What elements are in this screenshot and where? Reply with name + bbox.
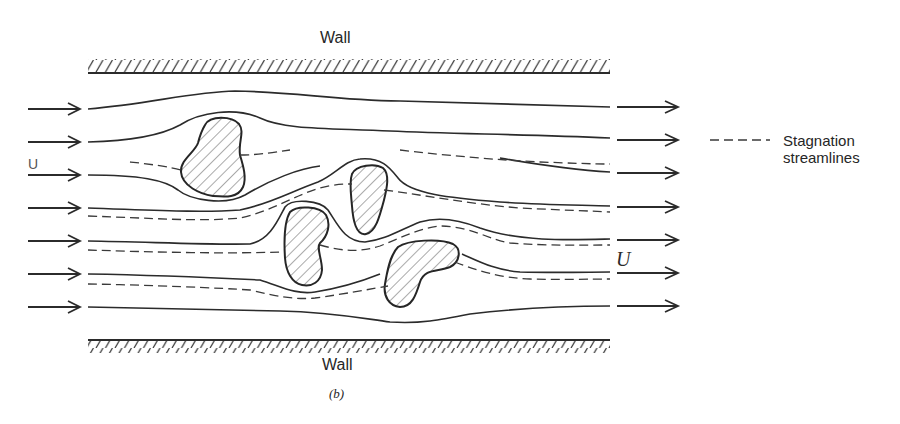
figure-caption: (b) [329, 386, 344, 401]
arrow-right-icon [617, 201, 678, 213]
inlet-arrows: U [28, 103, 80, 313]
bottom-wall-hatching [88, 341, 610, 353]
streamline [88, 274, 380, 293]
arrow-right-icon [28, 268, 80, 280]
arrow-right-icon [617, 167, 678, 179]
arrow-right-icon [28, 235, 80, 247]
top-wall-label: Wall [320, 29, 351, 46]
streamline [88, 112, 610, 142]
stagnation-streamline [240, 150, 290, 155]
legend-label-line2: streamlines [783, 149, 860, 166]
arrow-right-icon [28, 136, 80, 148]
flow-diagram: Wall Wall (b) U U [0, 0, 900, 424]
streamline [462, 254, 610, 272]
outlet-velocity-label: U [616, 248, 632, 270]
arrow-right-icon [28, 103, 80, 115]
streamline [88, 201, 610, 244]
streamline [88, 91, 610, 109]
stagnation-streamline [130, 162, 181, 170]
inlet-velocity-label: U [28, 156, 38, 172]
arrow-right-icon [617, 234, 678, 246]
bottom-wall: Wall (b) [88, 340, 610, 401]
arrow-right-icon [617, 300, 678, 312]
stagnation-streamline [88, 250, 283, 253]
obstacle-3 [285, 207, 329, 285]
arrow-right-icon [617, 101, 678, 113]
top-wall: Wall [88, 29, 610, 73]
arrow-right-icon [617, 134, 678, 146]
legend-label-line1: Stagnation [783, 132, 855, 149]
streamlines [88, 91, 610, 323]
obstacle-1 [181, 118, 245, 197]
obstacle-2 [350, 165, 387, 234]
arrow-right-icon [28, 301, 80, 313]
stagnation-streamline [400, 150, 610, 164]
arrow-right-icon [28, 202, 80, 214]
streamline [88, 306, 610, 323]
outlet-arrows: U [616, 101, 678, 312]
bottom-wall-label: Wall [322, 356, 353, 373]
obstacle-4 [385, 240, 459, 307]
stagnation-streamline [455, 262, 610, 279]
top-wall-hatching [88, 59, 610, 72]
legend: Stagnation streamlines [710, 132, 860, 166]
